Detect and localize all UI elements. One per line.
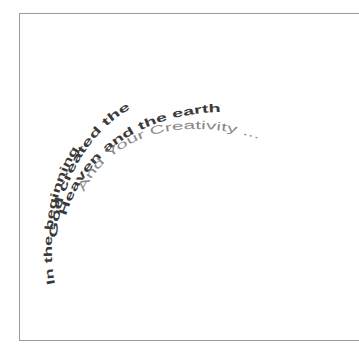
curved-text-artwork: In the beginning God created the Heaven … [0,0,353,357]
